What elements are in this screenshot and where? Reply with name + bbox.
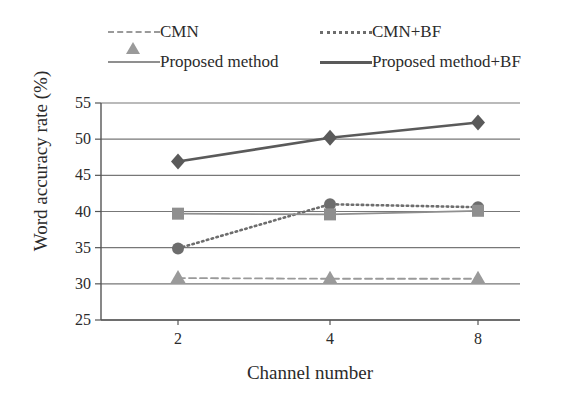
data-point-triangle (171, 270, 186, 283)
y-tick-label: 45 (57, 166, 91, 184)
data-point-triangle (471, 271, 486, 284)
data-point-square (472, 205, 484, 217)
series-cmn (171, 270, 486, 284)
data-point-square (324, 208, 336, 220)
y-tick-label: 55 (57, 94, 91, 112)
y-tick-label: 25 (57, 311, 91, 329)
x-axis-title: Channel number (100, 362, 520, 384)
chart-figure: CMN CMN+BF Proposed method Proposed meth… (0, 0, 563, 404)
y-axis-title: Word accuracy rate (%) (30, 46, 52, 276)
data-point-diamond (323, 130, 337, 146)
series-cmn-bf (172, 198, 484, 254)
data-point-square (172, 208, 184, 220)
x-axis-ticks (178, 320, 478, 325)
data-point-diamond (171, 154, 185, 170)
y-tick-label: 40 (57, 203, 91, 221)
x-tick-label: 2 (158, 330, 198, 348)
series-proposed-method-bf (171, 115, 485, 170)
data-point-diamond (471, 115, 485, 131)
y-tick-label: 50 (57, 130, 91, 148)
x-tick-label: 8 (458, 330, 498, 348)
y-tick-label: 30 (57, 275, 91, 293)
data-point-circle (172, 242, 184, 254)
y-tick-label: 35 (57, 239, 91, 257)
x-tick-label: 4 (310, 330, 350, 348)
data-point-triangle (323, 271, 338, 284)
